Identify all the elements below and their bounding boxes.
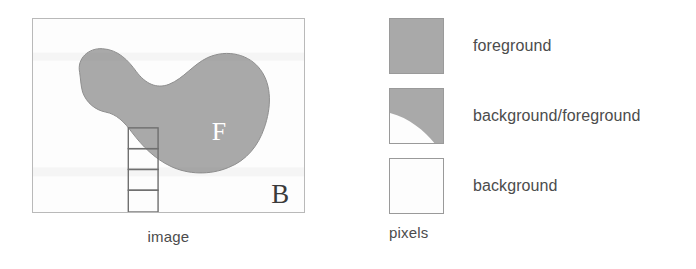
empty-white-swatch [389,158,444,214]
label-foreground-F: F [212,117,226,146]
image-frame: F B [32,18,305,213]
legend-item-label: foreground [473,18,551,74]
legend-item-label: background [473,158,558,214]
figure-root: F B image foreground [0,0,696,269]
image-panel: F B [32,18,305,213]
label-background-B: B [271,179,289,209]
legend-row: foreground [389,18,679,74]
solid-gray-swatch [389,18,444,74]
foreground-blob [79,49,269,173]
legend-row: background [389,158,679,214]
pixel-cell-background-2 [128,190,158,212]
image-illustration: F B [33,19,304,212]
legend-panel-caption: pixels [389,224,429,241]
mixed-gray-white-swatch [389,88,444,144]
image-panel-caption: image [32,228,305,245]
legend-row: background/foreground [389,88,679,144]
legend-item-label: background/foreground [473,88,641,144]
mixed-swatch-art [390,89,443,143]
